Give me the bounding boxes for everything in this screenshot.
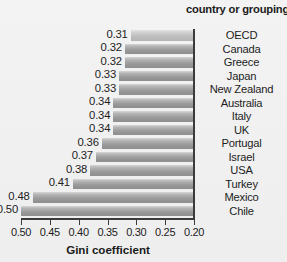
bar-value-label: 0.34 xyxy=(77,95,110,107)
gini-coefficient-bar-chart: country or grouping 0.310.320.320.330.33… xyxy=(0,0,287,262)
bar-value-label: 0.32 xyxy=(89,55,122,67)
category-label: USA xyxy=(196,164,287,178)
bar-value-label: 0.33 xyxy=(83,68,116,80)
x-axis-tick xyxy=(108,220,109,225)
x-axis-tick xyxy=(21,220,22,225)
bar-row: 0.50 xyxy=(0,205,196,219)
bar xyxy=(125,57,194,68)
category-label: OECD xyxy=(196,29,287,43)
x-axis-title: Gini coefficient xyxy=(21,243,195,256)
bar-value-label: 0.48 xyxy=(0,190,30,202)
bar-rows: 0.310.320.320.330.330.340.340.340.360.37… xyxy=(0,29,196,218)
category-label: UK xyxy=(196,124,287,138)
bar xyxy=(113,98,194,109)
category-label: Greece xyxy=(196,56,287,70)
bar xyxy=(119,84,194,95)
plot-area: 0.310.320.320.330.330.340.340.340.360.37… xyxy=(0,29,196,218)
bar xyxy=(96,152,194,163)
bar-value-label: 0.37 xyxy=(60,149,93,161)
x-axis-tick xyxy=(165,220,166,225)
category-label: Mexico xyxy=(196,191,287,205)
category-label: Italy xyxy=(196,110,287,124)
bar xyxy=(21,206,194,217)
bar-value-label: 0.38 xyxy=(54,163,87,175)
bar xyxy=(113,111,194,122)
bar-value-label: 0.36 xyxy=(66,136,99,148)
x-axis-tick xyxy=(79,220,80,225)
bar-row: 0.37 xyxy=(0,151,196,165)
x-axis-tick-label: 0.25 xyxy=(150,226,180,238)
bar-row: 0.38 xyxy=(0,164,196,178)
category-label: Chile xyxy=(196,205,287,219)
bar xyxy=(119,71,194,82)
axis-baseline-vertical xyxy=(193,29,195,219)
x-axis-tick-label: 0.45 xyxy=(35,226,65,238)
bar-value-label: 0.41 xyxy=(37,176,70,188)
bar xyxy=(102,138,194,149)
bar-value-label: 0.33 xyxy=(83,82,116,94)
bar xyxy=(33,192,194,203)
category-label: Portugal xyxy=(196,137,287,151)
x-axis-tick xyxy=(136,220,137,225)
x-axis-tick xyxy=(194,220,195,225)
bar xyxy=(73,179,194,190)
category-label: Canada xyxy=(196,43,287,57)
bar-value-label: 0.34 xyxy=(77,109,110,121)
bar-row: 0.48 xyxy=(0,191,196,205)
category-label: Turkey xyxy=(196,178,287,192)
category-label: New Zealand xyxy=(196,83,287,97)
category-labels: OECDCanadaGreeceJapanNew ZealandAustrali… xyxy=(196,29,287,218)
category-label: Israel xyxy=(196,151,287,165)
category-label: Australia xyxy=(196,97,287,111)
x-axis-tick-label: 0.35 xyxy=(93,226,123,238)
category-column-header: country or grouping xyxy=(186,3,287,15)
x-axis-tick-label: 0.30 xyxy=(121,226,151,238)
x-axis-tick xyxy=(50,220,51,225)
bar xyxy=(90,165,194,176)
x-axis-tick-label: 0.50 xyxy=(6,226,36,238)
bar-value-label: 0.34 xyxy=(77,122,110,134)
x-axis-tick-label: 0.40 xyxy=(64,226,94,238)
bar-value-label: 0.32 xyxy=(89,41,122,53)
bar-value-label: 0.50 xyxy=(0,203,18,215)
x-axis-tick-label: 0.20 xyxy=(179,226,209,238)
bar-value-label: 0.31 xyxy=(95,28,128,40)
bar-row: 0.36 xyxy=(0,137,196,151)
category-label: Japan xyxy=(196,70,287,84)
bar xyxy=(125,44,194,55)
bar xyxy=(131,30,194,41)
bar xyxy=(113,125,194,136)
